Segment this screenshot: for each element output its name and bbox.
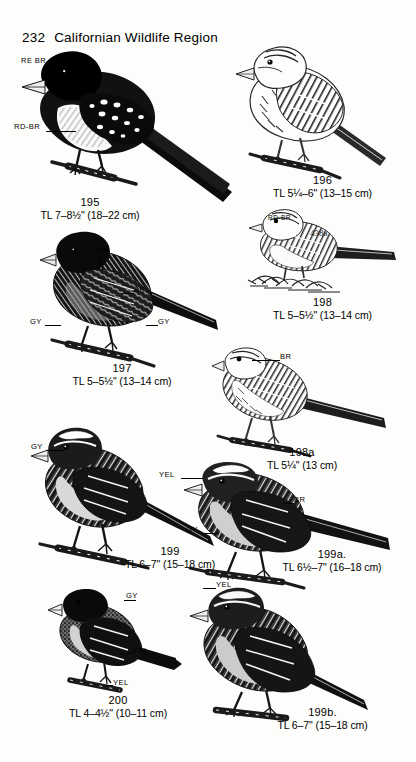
part-label-rd-br-198: RD-BR xyxy=(268,214,291,221)
caption-199a: 199a. TL 6½–7" (16–18 cm) xyxy=(252,548,412,573)
part-label-yel-200-mid: YEL xyxy=(133,646,149,655)
part-label-gy-197-left: GY xyxy=(30,317,42,326)
caption-196: 196 TL 5¼–6" (13–15 cm) xyxy=(240,174,405,199)
caption-number-196: 196 xyxy=(240,174,405,187)
caption-198: 198 TL 5–5½" (13–14 cm) xyxy=(240,296,405,321)
leader-line-yel-199b xyxy=(203,588,216,589)
bird-illustration-195 xyxy=(18,42,243,207)
caption-number-199b: 199b. xyxy=(240,706,405,719)
caption-measurement-197: TL 5–5½" (13–14 cm) xyxy=(42,375,202,387)
part-label-gy-197-top: GY xyxy=(96,245,108,254)
bird-illustration-198a xyxy=(212,348,402,458)
leader-line-yel-200-low xyxy=(105,685,113,686)
caption-197: 197 TL 5–5½" (13–14 cm) xyxy=(42,362,202,387)
leader-line-gy-199a xyxy=(201,533,219,534)
plate-marginalia-number: 438a xyxy=(310,228,328,238)
caption-number-198a: 198a xyxy=(218,446,386,459)
caption-number-195: 195 xyxy=(10,196,170,209)
caption-200: 200 TL 4–4½" (10–11 cm) xyxy=(38,694,198,719)
part-label-br-198a: BR xyxy=(280,352,291,361)
part-label-br-197: BR xyxy=(134,285,145,294)
part-label-gy-197-right: GY xyxy=(158,317,170,326)
caption-measurement-198: TL 5–5½" (13–14 cm) xyxy=(240,309,405,321)
caption-number-200: 200 xyxy=(38,694,198,707)
part-label-rd-br-195: RD-BR xyxy=(14,122,40,131)
part-label-gy-200: GY xyxy=(126,591,138,600)
part-label-yel-200-low: YEL xyxy=(113,678,129,687)
leader-line-gy-200 xyxy=(124,600,136,601)
leader-line-re-br xyxy=(45,65,67,66)
leader-line-gy-197-top xyxy=(100,255,101,265)
leader-line-br-198a xyxy=(252,360,280,361)
caption-199b: 199b. TL 6–7" (15–18 cm) xyxy=(240,706,405,731)
caption-number-199a: 199a. xyxy=(252,548,412,561)
bird-illustration-196 xyxy=(228,38,398,188)
leader-line-gy-199 xyxy=(46,450,64,451)
field-guide-page: 232Californian Wildlife Region xyxy=(0,0,416,762)
part-label-gy-199a: GY xyxy=(186,525,198,534)
caption-measurement-196: TL 5¼–6" (13–15 cm) xyxy=(240,187,405,199)
caption-measurement-195: TL 7–8½" (18–22 cm) xyxy=(10,209,170,221)
leader-line-yel-200-mid xyxy=(121,653,133,654)
caption-number-198: 198 xyxy=(240,296,405,309)
part-label-yel-199a: YEL xyxy=(159,470,175,479)
leader-line-br-199a xyxy=(284,503,294,504)
leader-line-gy-197-left xyxy=(45,325,61,326)
bird-illustration-199b xyxy=(186,578,396,718)
caption-195: 195 TL 7–8½" (18–22 cm) xyxy=(10,196,170,221)
leader-line-rd-br-195 xyxy=(46,131,76,132)
part-label-gy-199: GY xyxy=(31,442,43,451)
caption-number-197: 197 xyxy=(42,362,202,375)
part-label-re-br: RE BR xyxy=(21,56,46,65)
leader-line-yel-199a xyxy=(181,478,203,479)
part-label-yel-199b: YEL xyxy=(216,580,232,589)
caption-measurement-199b: TL 6–7" (15–18 cm) xyxy=(240,719,405,731)
leader-line-gy-197-right xyxy=(146,325,158,326)
leader-line-br-197 xyxy=(122,293,134,294)
caption-measurement-200: TL 4–4½" (10–11 cm) xyxy=(38,707,198,719)
part-label-br-199a: BR xyxy=(294,495,305,504)
caption-measurement-199a: TL 6½–7" (16–18 cm) xyxy=(252,561,412,573)
bird-illustration-197 xyxy=(38,228,228,368)
